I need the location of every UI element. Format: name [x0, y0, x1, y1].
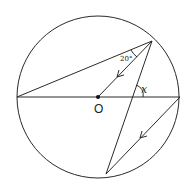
chord-left-to-a	[17, 41, 152, 97]
center-point	[96, 95, 100, 99]
angle-label-20: 20°	[120, 55, 132, 63]
center-label: O	[94, 102, 103, 116]
angle-label-x: x	[141, 83, 148, 96]
geometry-diagram: 20° x O	[0, 0, 188, 183]
